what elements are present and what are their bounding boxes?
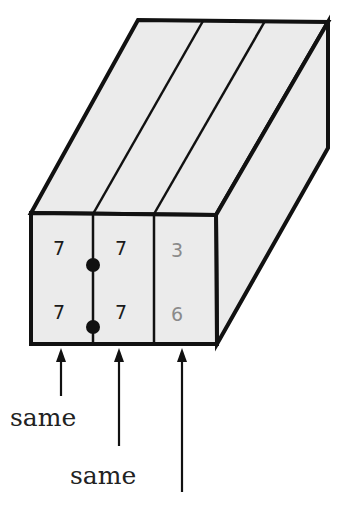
col1-top-value: 7 [53, 237, 65, 259]
label-col2: same [70, 461, 136, 490]
label-col1: same [10, 403, 76, 432]
box-diagram: 7 7 7 7 3 6 same same [0, 0, 337, 514]
connector-dot-bottom [86, 320, 100, 334]
col1-bottom-value: 7 [53, 301, 65, 323]
col3-bottom-value: 6 [171, 303, 183, 325]
col2-bottom-value: 7 [115, 301, 127, 323]
connector-dot-top [86, 258, 100, 272]
front-face [31, 213, 217, 344]
col2-top-value: 7 [115, 237, 127, 259]
arrow-col3 [177, 348, 187, 492]
arrow-col2 [114, 348, 124, 446]
arrow-col1 [56, 348, 66, 396]
col3-top-value: 3 [171, 239, 183, 261]
